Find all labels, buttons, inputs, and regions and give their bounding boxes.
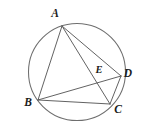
geometry-figure: ABCDE — [0, 0, 143, 128]
geometry-diagram-canvas: ABCDE — [0, 0, 143, 128]
segment-ad — [62, 26, 121, 76]
chord-segments-group — [38, 26, 121, 104]
circle-group — [29, 24, 126, 121]
point-labels-group: ABCDE — [23, 7, 133, 115]
circumscribed-circle — [29, 24, 126, 121]
segment-cd — [110, 76, 121, 104]
point-label-e: E — [94, 64, 102, 75]
segment-bc — [38, 100, 110, 104]
segment-ab — [38, 26, 62, 100]
point-label-c: C — [114, 103, 122, 115]
point-label-a: A — [50, 7, 59, 19]
segment-bd-diagonal — [38, 76, 121, 100]
point-label-b: B — [23, 96, 32, 108]
segment-ac-diagonal — [62, 26, 110, 104]
point-label-d: D — [123, 67, 133, 79]
